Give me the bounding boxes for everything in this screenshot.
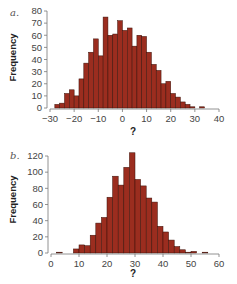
histogram-bar <box>171 93 176 108</box>
histogram-bar <box>141 186 147 253</box>
y-tick-label: 50 <box>31 42 42 53</box>
histogram-bar <box>176 97 181 108</box>
histogram-bar <box>118 21 123 108</box>
histogram-bar <box>191 251 197 253</box>
y-tick-label: 80 <box>32 183 43 194</box>
histogram-bar <box>185 252 191 253</box>
histogram-bar <box>156 70 161 108</box>
histogram-bar <box>74 96 79 108</box>
y-tick-label: 20 <box>32 231 43 242</box>
histogram-bar <box>202 252 208 253</box>
histogram-bar <box>93 39 98 108</box>
x-tick-label: 30 <box>190 113 201 124</box>
y-tick-label: 30 <box>31 66 42 77</box>
histogram-bar <box>98 56 103 108</box>
histogram-bar <box>96 223 102 253</box>
x-tick-label: −20 <box>66 113 82 124</box>
histogram-bar <box>163 232 169 253</box>
histogram-bar <box>57 252 63 253</box>
y-tick-label: 0 <box>37 102 42 113</box>
histogram-bar <box>127 28 132 108</box>
histogram-bar <box>190 107 195 108</box>
histogram-bar <box>103 17 108 108</box>
x-tick-label: 40 <box>158 258 169 269</box>
histogram-bar <box>152 202 158 253</box>
histogram-bar <box>135 179 141 253</box>
histogram-plot-a: 01020304050607080−30−20−10010203040 <box>0 0 237 142</box>
histogram-bar <box>180 250 186 253</box>
histogram-bar <box>84 63 89 108</box>
x-tick-label: 50 <box>186 258 197 269</box>
histogram-bar <box>60 103 65 108</box>
histogram-bar <box>124 167 130 253</box>
histogram-bar <box>113 34 118 108</box>
histogram-bar <box>64 93 69 108</box>
histogram-bar <box>107 197 113 253</box>
x-tick-label: 20 <box>165 113 176 124</box>
y-tick-label: 20 <box>31 78 42 89</box>
histogram-bar <box>101 217 107 253</box>
y-tick-label: 70 <box>31 17 42 28</box>
histogram-bar <box>180 102 185 108</box>
y-tick-label: 40 <box>32 215 43 226</box>
histogram-bar <box>147 52 152 108</box>
histogram-bar <box>161 84 166 108</box>
histogram-bar <box>108 35 113 108</box>
histogram-bar <box>166 81 171 108</box>
histogram-panel-b: b. Frequency ? 0204060801001200102030405… <box>0 142 237 284</box>
histogram-bar <box>174 247 180 253</box>
histogram-bar <box>146 198 152 253</box>
y-tick-label: 0 <box>38 247 43 258</box>
histogram-bars <box>55 17 205 108</box>
histogram-bar <box>129 153 135 253</box>
histogram-bar <box>79 245 85 253</box>
y-tick-label: 80 <box>31 5 42 16</box>
histogram-bar <box>169 240 175 253</box>
x-tick-label: 0 <box>120 113 125 124</box>
histogram-bar <box>157 226 163 253</box>
histogram-bar <box>79 79 84 108</box>
y-tick-label: 60 <box>32 199 43 210</box>
histogram-bar <box>90 235 96 253</box>
histogram-bar <box>55 104 60 108</box>
histogram-bar <box>89 52 94 108</box>
y-tick-label: 10 <box>31 90 42 101</box>
histogram-bar <box>118 185 124 253</box>
histogram-bars <box>57 153 208 253</box>
histogram-bar <box>122 30 127 108</box>
histogram-bar <box>85 246 91 253</box>
x-tick-label: 10 <box>141 113 152 124</box>
histogram-bar <box>69 90 74 108</box>
histogram-panel-a: a. Frequency ? 01020304050607080−30−20−1… <box>0 0 237 142</box>
x-tick-label: 60 <box>214 258 225 269</box>
histogram-bar <box>132 46 137 108</box>
x-tick-label: −30 <box>42 113 58 124</box>
x-tick-label: 40 <box>214 113 225 124</box>
x-tick-label: 0 <box>48 258 53 269</box>
x-tick-label: 10 <box>74 258 85 269</box>
histogram-bar <box>137 35 142 108</box>
y-tick-label: 60 <box>31 30 42 41</box>
histogram-bar <box>185 104 190 108</box>
x-tick-label: −10 <box>90 113 106 124</box>
histogram-plot-b: 0204060801001200102030405060 <box>0 142 237 284</box>
histogram-bar <box>73 249 79 253</box>
histogram-bar <box>151 64 156 108</box>
y-tick-label: 40 <box>31 54 42 65</box>
x-tick-label: 20 <box>102 258 113 269</box>
y-tick-label: 100 <box>27 166 43 177</box>
x-tick-label: 30 <box>130 258 141 269</box>
histogram-bar <box>200 107 205 108</box>
histogram-bar <box>113 176 119 253</box>
y-tick-label: 120 <box>27 150 43 161</box>
histogram-bar <box>142 36 147 108</box>
